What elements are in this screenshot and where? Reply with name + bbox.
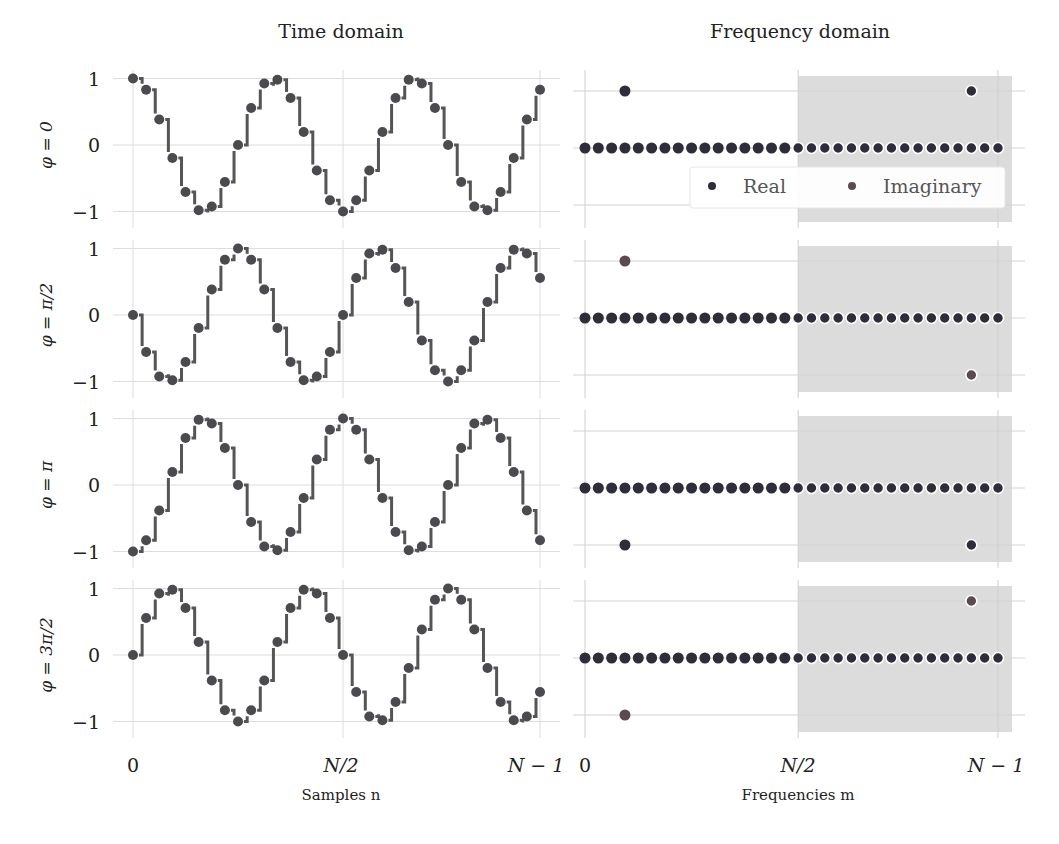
time-sample-marker [496, 697, 506, 707]
time-sample-marker [496, 187, 506, 197]
freq-sample-marker [713, 143, 724, 154]
freq-sample-marker [886, 313, 897, 324]
time-sample-marker [312, 455, 322, 465]
time-sample-marker [430, 103, 440, 113]
time-xtick-half: N/2 [322, 754, 358, 776]
time-sample-marker [456, 595, 466, 605]
time-sample-marker [404, 663, 414, 673]
freq-sample-marker [873, 313, 884, 324]
freq-sample-marker [580, 143, 591, 154]
freq-sample-marker [873, 143, 884, 154]
freq-sample-marker [953, 653, 964, 664]
freq-sample-marker [686, 143, 697, 154]
time-sample-marker [522, 249, 532, 259]
freq-sample-marker [913, 483, 924, 494]
time-sample-marker [259, 541, 269, 551]
freq-sample-marker [766, 653, 777, 664]
time-xlabel: Samples n [302, 786, 381, 804]
freq-sample-marker [739, 653, 750, 664]
freq-sample-marker [966, 143, 977, 154]
time-sample-marker [220, 255, 230, 265]
time-xtick-0: 0 [127, 754, 139, 776]
time-sample-marker [377, 715, 387, 725]
time-sample-marker [456, 365, 466, 375]
freq-sample-marker [966, 313, 977, 324]
time-sample-marker [325, 425, 335, 435]
time-sample-marker [496, 433, 506, 443]
freq-sample-marker [686, 313, 697, 324]
time-ytick: −1 [72, 711, 100, 733]
time-sample-marker [312, 589, 322, 599]
time-sample-marker [181, 357, 191, 367]
freq-sample-marker [939, 143, 950, 154]
time-sample-marker [509, 153, 519, 163]
time-sample-marker [509, 715, 519, 725]
freq-sample-marker [766, 143, 777, 154]
freq-xlabel: Frequencies m [741, 786, 854, 804]
freq-sample-marker [939, 483, 950, 494]
freq-sample-marker [766, 483, 777, 494]
freq-sample-marker [793, 653, 804, 664]
time-sample-marker [128, 310, 138, 320]
freq-sample-marker [673, 483, 684, 494]
freq-sample-marker [646, 143, 657, 154]
time-sample-marker [220, 177, 230, 187]
freq-sample-marker [953, 483, 964, 494]
freq-sample-marker [593, 653, 604, 664]
time-sample-marker [167, 467, 177, 477]
freq-sample-marker [899, 653, 910, 664]
freq-sample-marker [699, 653, 710, 664]
time-sample-marker [482, 415, 492, 425]
freq-sample-marker [726, 313, 737, 324]
time-sample-marker [351, 195, 361, 205]
time-sample-marker [286, 93, 296, 103]
freq-sample-marker [619, 313, 630, 324]
time-sample-marker [364, 165, 374, 175]
freq-sample-marker [913, 313, 924, 324]
time-sample-marker [417, 79, 427, 89]
time-xtick-last: N − 1 [507, 754, 565, 776]
freq-sample-marker [739, 143, 750, 154]
freq-sample-marker [926, 143, 937, 154]
time-sample-marker [338, 414, 348, 424]
time-ytick: 0 [88, 474, 100, 496]
freq-sample-marker [606, 653, 617, 664]
time-sample-marker [456, 177, 466, 187]
freq-sample-marker [646, 313, 657, 324]
freq-sample-marker [793, 143, 804, 154]
freq-sample-marker [859, 483, 870, 494]
time-sample-marker [417, 625, 427, 635]
freq-sample-marker [953, 313, 964, 324]
time-ytick: 1 [88, 238, 100, 260]
freq-sample-marker [619, 143, 630, 154]
freq-sample-marker [993, 483, 1004, 494]
time-ytick: 0 [88, 644, 100, 666]
row-3: 10−1φ = 3π/2 [36, 578, 1025, 739]
time-sample-marker [404, 297, 414, 307]
freq-sample-marker [659, 313, 670, 324]
time-sample-marker [207, 201, 217, 211]
freq-sample-marker [846, 653, 857, 664]
freq-sample-marker [673, 143, 684, 154]
time-sample-marker [377, 127, 387, 137]
freq-sample-marker [833, 313, 844, 324]
freq-sample-marker [793, 313, 804, 324]
time-sample-marker [233, 140, 243, 150]
time-sample-marker [509, 245, 519, 255]
freq-sample-marker [779, 143, 790, 154]
time-sample-marker [141, 613, 151, 623]
row-ylabel: φ = 3π/2 [36, 617, 56, 693]
freq-sample-marker [580, 483, 591, 494]
freq-sample-marker [966, 483, 977, 494]
time-sample-marker [128, 547, 138, 557]
freq-sample-marker [993, 313, 1004, 324]
freq-sample-marker [580, 313, 591, 324]
freq-sample-marker [886, 483, 897, 494]
freq-sample-marker [659, 483, 670, 494]
time-sample-marker [430, 517, 440, 527]
time-sample-marker [391, 263, 401, 273]
time-sample-marker [194, 323, 204, 333]
freq-sample-marker [806, 483, 817, 494]
freq-sample-marker [806, 653, 817, 664]
freq-sample-marker [926, 653, 937, 664]
